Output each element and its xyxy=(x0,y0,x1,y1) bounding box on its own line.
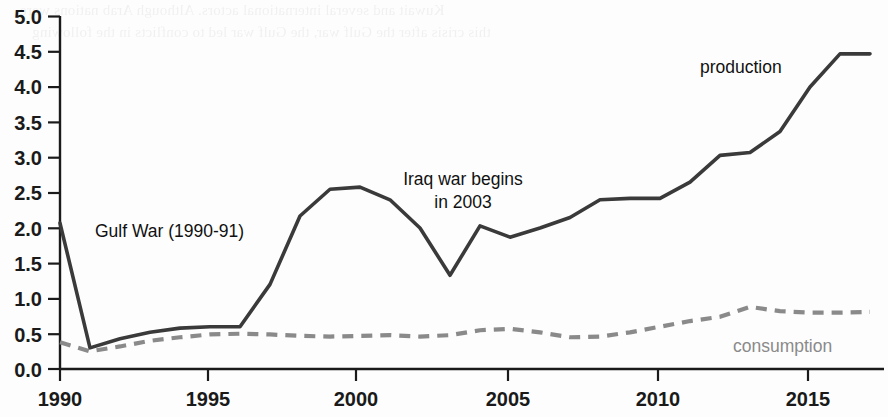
y-tick-label-1_5: 1.5 xyxy=(14,253,42,275)
y-tick-label-1_0: 1.0 xyxy=(14,288,42,310)
y-tick-label-4_0: 4.0 xyxy=(14,76,42,98)
y-axis-tick-labels: 5.0 4.5 4.0 3.5 3.0 2.5 2.0 1.5 1.0 0.5 … xyxy=(14,6,42,381)
iraq-war-annotation-line-2: in 2003 xyxy=(434,192,491,212)
x-tick-label-2010: 2010 xyxy=(636,388,681,410)
gulf-war-annotation-line-1: Gulf War (1990-91) xyxy=(95,221,244,241)
x-tick-label-1995: 1995 xyxy=(186,388,231,410)
y-tick-label-0_5: 0.5 xyxy=(14,324,42,346)
chart-annotations: Gulf War (1990-91) Iraq war begins in 20… xyxy=(95,169,523,241)
y-tick-label-3_0: 3.0 xyxy=(14,147,42,169)
chart-figure: Kuwait and several international actors.… xyxy=(0,0,888,417)
x-tick-label-2005: 2005 xyxy=(486,388,531,410)
line-chart-svg: 5.0 4.5 4.0 3.5 3.0 2.5 2.0 1.5 1.0 0.5 … xyxy=(0,0,888,417)
production-series-label: production xyxy=(700,57,782,77)
y-tick-label-4_5: 4.5 xyxy=(14,41,42,63)
x-tick-label-2000: 2000 xyxy=(334,388,379,410)
iraq-war-annotation-line-1: Iraq war begins xyxy=(403,169,523,189)
consumption-series-label: consumption xyxy=(733,336,832,356)
x-axis-ticks xyxy=(60,369,808,381)
y-tick-label-5_0: 5.0 xyxy=(14,6,42,28)
y-tick-label-3_5: 3.5 xyxy=(14,112,42,134)
y-tick-label-2_5: 2.5 xyxy=(14,182,42,204)
x-tick-label-2015: 2015 xyxy=(786,388,831,410)
y-tick-label-0_0: 0.0 xyxy=(14,359,42,381)
y-tick-label-2_0: 2.0 xyxy=(14,218,42,240)
y-axis-ticks xyxy=(48,17,60,370)
x-tick-label-1990: 1990 xyxy=(38,388,83,410)
x-axis-tick-labels: 1990 1995 2000 2005 2010 2015 xyxy=(38,388,831,410)
